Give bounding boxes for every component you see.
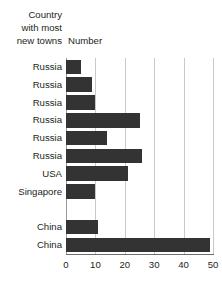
category-label: Singapore	[0, 183, 62, 201]
gridline-50	[213, 58, 214, 254]
category-label: Russia	[0, 129, 62, 147]
category-column-header: Country with most new towns	[0, 8, 62, 48]
bar-chart: Country with most new towns Number Russi…	[0, 0, 222, 288]
x-tick-label-50: 50	[208, 258, 219, 272]
bar-row	[66, 111, 213, 129]
bar	[66, 149, 142, 164]
bar-row	[66, 94, 213, 112]
bar	[66, 166, 128, 181]
bar	[66, 238, 210, 253]
category-axis-labels: RussiaRussiaRussiaRussiaRussiaRussiaUSAS…	[0, 58, 62, 254]
category-label: Russia	[0, 111, 62, 129]
category-label: Russia	[0, 58, 62, 76]
bar-rows	[66, 58, 213, 254]
bar	[66, 113, 140, 128]
category-label: Russia	[0, 147, 62, 165]
bar	[66, 77, 92, 92]
category-label: China	[0, 236, 62, 254]
bar-row	[66, 236, 213, 254]
x-tick-label-20: 20	[119, 258, 130, 272]
bar	[66, 60, 81, 75]
category-label: China	[0, 218, 62, 236]
category-label: Russia	[0, 76, 62, 94]
value-column-header: Number	[68, 34, 102, 47]
bar-row	[66, 147, 213, 165]
x-tick-label-30: 30	[149, 258, 160, 272]
bar-row	[66, 129, 213, 147]
bar	[66, 95, 95, 110]
x-tick-label-0: 0	[63, 258, 68, 272]
bar-row	[66, 58, 213, 76]
bar	[66, 184, 95, 199]
x-tick-label-10: 10	[90, 258, 101, 272]
bar-row	[66, 183, 213, 201]
bar-row	[66, 76, 213, 94]
x-axis-line	[66, 254, 214, 255]
chart-header: Country with most new towns Number	[0, 8, 222, 54]
bar-row	[66, 218, 213, 236]
category-label	[0, 200, 62, 218]
category-label: USA	[0, 165, 62, 183]
bar-row	[66, 200, 213, 218]
plot-area	[66, 58, 213, 254]
x-axis-tick-labels: 01020304050	[66, 258, 213, 274]
bar-row	[66, 165, 213, 183]
bar	[66, 220, 98, 235]
category-label: Russia	[0, 94, 62, 112]
x-tick-label-40: 40	[178, 258, 189, 272]
bar	[66, 131, 107, 146]
